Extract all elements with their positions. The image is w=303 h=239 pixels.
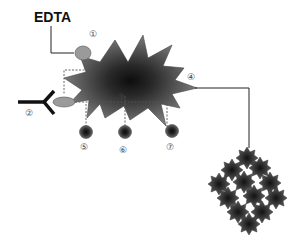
marker-7: ⑦ (166, 142, 174, 152)
bead-5 (80, 126, 93, 139)
cell-cluster (208, 147, 287, 235)
diagram-canvas: EDTA ① ② ③ ④ ⑤ (0, 0, 303, 239)
edta-label: EDTA (34, 9, 71, 25)
marker-4: ④ (187, 72, 195, 82)
marker-6: ⑥ (119, 145, 127, 155)
marker-3: ③ (117, 92, 125, 102)
marker-5: ⑤ (80, 142, 88, 152)
antibody-binding-oval (53, 97, 75, 107)
linker-line (195, 88, 249, 148)
antibody-icon (18, 91, 54, 114)
edta-connector-line (51, 26, 74, 53)
bead-7 (166, 125, 179, 138)
marker-2: ② (25, 108, 33, 118)
edta-ligand-oval (75, 46, 91, 60)
bead-6 (119, 126, 132, 139)
marker-1: ① (89, 29, 97, 39)
